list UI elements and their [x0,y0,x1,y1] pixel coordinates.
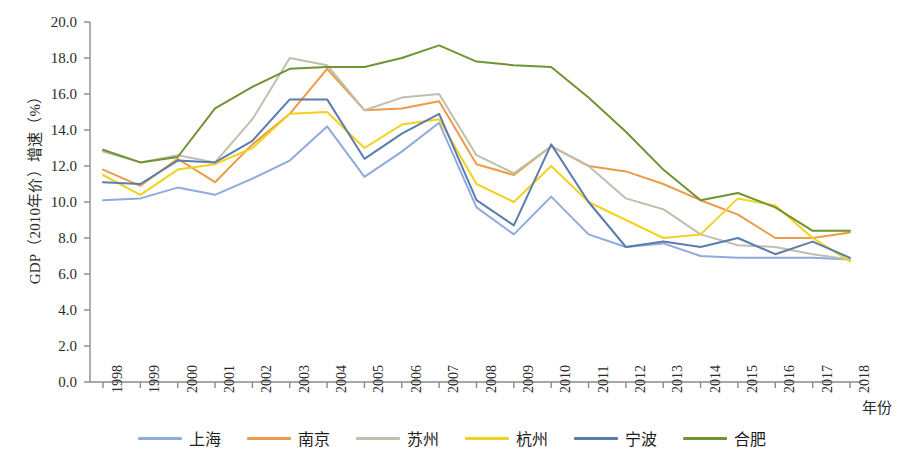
y-axis-tick-label: 12.0 [31,158,77,175]
y-axis-tick-label: 20.0 [31,14,77,31]
x-axis-tick-label: 2012 [633,365,649,393]
x-axis-tick-label: 2002 [259,365,275,393]
x-axis-tick-label: 2006 [409,365,425,393]
y-axis-tick-label: 18.0 [31,50,77,67]
series-line-宁波 [103,99,850,257]
x-axis-tick-label: 2013 [670,365,686,393]
legend-swatch-icon [138,437,182,440]
legend-item-合肥[interactable]: 合肥 [683,426,766,450]
chart-legend: 上海南京苏州杭州宁波合肥 [0,426,904,450]
x-axis-title: 年份 [862,396,892,417]
legend-swatch-icon [356,437,400,440]
legend-swatch-icon [247,437,291,440]
legend-item-宁波[interactable]: 宁波 [574,426,657,450]
legend-swatch-icon [683,437,727,440]
legend-label: 合肥 [734,426,766,450]
y-axis-tick-label: 10.0 [31,194,77,211]
y-axis-tick-label: 6.0 [31,266,77,283]
legend-item-苏州[interactable]: 苏州 [356,426,439,450]
legend-item-南京[interactable]: 南京 [247,426,330,450]
x-axis-tick-label: 1998 [110,365,126,393]
x-axis-tick-label: 2000 [185,365,201,393]
series-line-合肥 [103,45,850,230]
x-axis-tick-label: 2016 [782,365,798,393]
series-line-苏州 [103,58,850,260]
x-axis-tick-label: 2004 [334,365,350,393]
legend-label: 上海 [189,426,221,450]
x-axis-tick-label: 2003 [297,365,313,393]
x-axis-tick-label: 2017 [820,365,836,393]
x-axis-tick-label: 2008 [484,365,500,393]
y-axis-tick-label: 14.0 [31,122,77,139]
legend-label: 南京 [298,426,330,450]
y-axis-tick-label: 16.0 [31,86,77,103]
legend-item-杭州[interactable]: 杭州 [465,426,548,450]
x-axis-tick-label: 1999 [147,365,163,393]
legend-item-上海[interactable]: 上海 [138,426,221,450]
legend-label: 苏州 [407,426,439,450]
x-axis-tick-label: 2010 [558,365,574,393]
x-axis-tick-label: 2011 [596,366,612,393]
y-axis-tick-label: 0.0 [31,374,77,391]
x-axis-tick-label: 2001 [222,365,238,393]
x-axis-tick-label: 2005 [371,365,387,393]
gdp-growth-line-chart: GDP（2010年价）增速（%） 年份 0.02.04.06.08.010.01… [0,0,904,456]
y-axis-tick-label: 8.0 [31,230,77,247]
y-axis-tick-label: 4.0 [31,302,77,319]
legend-label: 宁波 [625,426,657,450]
legend-label: 杭州 [516,426,548,450]
legend-swatch-icon [574,437,618,440]
legend-swatch-icon [465,437,509,440]
x-axis-tick-label: 2015 [745,365,761,393]
x-axis-tick-label: 2009 [521,365,537,393]
y-axis-tick-label: 2.0 [31,338,77,355]
x-axis-tick-label: 2014 [708,365,724,393]
x-axis-tick-label: 2007 [446,365,462,393]
x-axis-tick-label: 2018 [857,365,873,393]
